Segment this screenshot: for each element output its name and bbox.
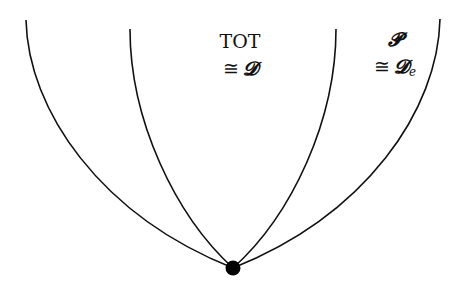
- region-title-tot: TOT: [190, 32, 290, 51]
- region-title-p: 𝓟: [345, 30, 445, 49]
- script-d-symbol: 𝓓: [243, 58, 258, 79]
- region-equiv-tot: ≅𝓓: [190, 59, 290, 78]
- subscript-e: e: [409, 65, 416, 79]
- vertex-dot: [226, 261, 241, 276]
- script-d-symbol: 𝓓: [394, 56, 409, 77]
- region-label-p: 𝓟 ≅𝓓e: [345, 30, 445, 78]
- region-equiv-p: ≅𝓓e: [345, 57, 445, 78]
- region-label-tot: TOT ≅𝓓: [190, 32, 290, 78]
- congruence-symbol: ≅: [374, 55, 390, 77]
- congruence-symbol: ≅: [223, 57, 239, 79]
